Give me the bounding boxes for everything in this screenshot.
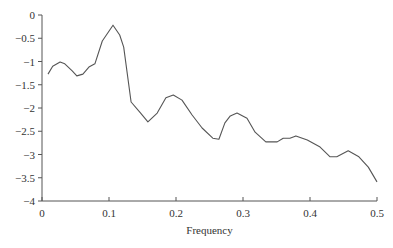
x-tick-label: 0.2: [169, 207, 183, 219]
x-tick-label: 0.3: [236, 207, 250, 219]
y-tick-label: −2.5: [15, 125, 35, 137]
line-chart: 0−0.5−1−1.5−2−2.5−3−3.5−4 00.10.20.30.40…: [0, 0, 393, 248]
spectrum-line: [48, 25, 377, 182]
x-axis-title: Frequency: [186, 224, 233, 236]
y-tick-label: 0: [30, 9, 36, 21]
x-axis-ticks: 00.10.20.30.40.5: [39, 197, 384, 219]
plot-area: 0−0.5−1−1.5−2−2.5−3−3.5−4 00.10.20.30.40…: [15, 9, 384, 236]
y-tick-label: −2: [23, 102, 35, 114]
y-tick-label: −0.5: [15, 32, 35, 44]
y-tick-label: −4: [23, 195, 35, 207]
x-tick-label: 0.4: [303, 207, 317, 219]
y-tick-label: −3: [23, 149, 35, 161]
x-tick-label: 0: [39, 207, 45, 219]
y-tick-label: −1: [23, 56, 35, 68]
x-tick-label: 0.1: [102, 207, 116, 219]
x-tick-label: 0.5: [370, 207, 384, 219]
y-tick-label: −3.5: [15, 172, 35, 184]
y-axis-ticks: 0−0.5−1−1.5−2−2.5−3−3.5−4: [15, 9, 42, 207]
y-tick-label: −1.5: [15, 79, 35, 91]
